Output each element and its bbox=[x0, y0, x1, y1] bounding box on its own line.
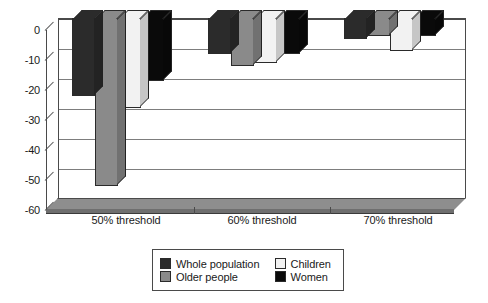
bar-side-face bbox=[163, 10, 172, 80]
legend-swatch bbox=[160, 258, 171, 269]
bar-side-face bbox=[412, 10, 421, 50]
bar-whole-population bbox=[72, 18, 95, 96]
legend-label: Older people bbox=[176, 271, 238, 283]
bar-whole-population bbox=[344, 18, 367, 39]
x-axis-category-label: 70% threshold bbox=[363, 214, 432, 226]
y-axis-tick-label: -50 bbox=[25, 174, 40, 186]
legend-label: Children bbox=[291, 258, 331, 270]
bar-side-face bbox=[299, 10, 308, 53]
legend-swatch bbox=[275, 271, 286, 282]
plot-area bbox=[46, 18, 466, 208]
y-axis-tick-label: -10 bbox=[25, 54, 40, 66]
bar-side-face bbox=[140, 10, 149, 107]
x-axis-category-label: 50% threshold bbox=[91, 214, 160, 226]
x-axis-category-label: 60% threshold bbox=[227, 214, 296, 226]
y-axis-tick-label: -30 bbox=[25, 114, 40, 126]
legend-item: Women bbox=[275, 271, 336, 283]
y-axis-tick-label: -40 bbox=[25, 144, 40, 156]
y-axis-tick-label: 0 bbox=[34, 24, 40, 36]
y-axis-tick-label: -20 bbox=[25, 84, 40, 96]
bar-side-face bbox=[253, 10, 262, 65]
y-axis-labels: 0-10-20-30-40-50-60 bbox=[0, 18, 40, 210]
y-axis-tick-label: -60 bbox=[25, 204, 40, 216]
legend-item: Whole population bbox=[160, 258, 265, 270]
legend-label: Whole population bbox=[176, 258, 259, 270]
chart-legend: Whole populationChildrenOlder peopleWome… bbox=[152, 249, 344, 291]
bars-layer bbox=[58, 18, 466, 198]
y-axis-tick-mark bbox=[45, 22, 54, 31]
legend-item: Older people bbox=[160, 271, 265, 283]
legend-swatch bbox=[275, 258, 286, 269]
legend-item: Children bbox=[275, 258, 336, 270]
bar-side-face bbox=[117, 10, 126, 185]
bar-side-face bbox=[276, 10, 285, 62]
x-axis-tick-mark bbox=[330, 207, 331, 214]
legend-swatch bbox=[160, 271, 171, 282]
x-axis-tick-mark bbox=[194, 207, 195, 214]
bar-chart: 0-10-20-30-40-50-60 50% threshold60% thr… bbox=[0, 0, 488, 303]
legend-label: Women bbox=[291, 271, 328, 283]
bar-side-face bbox=[94, 10, 103, 95]
bar-whole-population bbox=[208, 18, 231, 54]
